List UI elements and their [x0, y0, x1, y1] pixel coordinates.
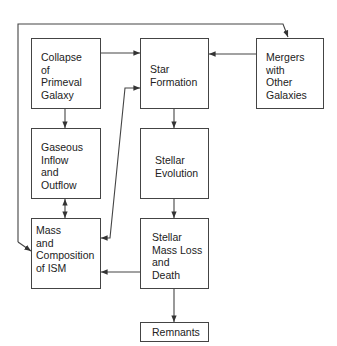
node-label-line: of ISM — [36, 262, 100, 275]
node-gaseous-inflow-outflow: Gaseous Inflow and Outflow — [31, 128, 101, 199]
node-label-line: Outflow — [41, 179, 100, 192]
node-label-line: Evolution — [155, 167, 208, 180]
node-label-line: Star — [150, 63, 208, 76]
node-label-line: with — [266, 64, 323, 77]
node-label-line: and — [41, 166, 100, 179]
edge-outer-loop-to-ism — [18, 242, 31, 251]
node-label-line: Composition — [36, 249, 100, 262]
node-mergers-with-other-galaxies: Mergers with Other Galaxies — [256, 38, 324, 109]
node-stellar-evolution: Stellar Evolution — [140, 128, 209, 199]
node-label-line: Mergers — [266, 51, 323, 64]
node-label-line: of — [41, 64, 100, 77]
node-label-line: Galaxy — [41, 89, 100, 102]
node-star-formation: Star Formation — [140, 38, 209, 109]
node-label-line: Inflow — [41, 154, 100, 167]
node-label-line: Stellar — [155, 154, 208, 167]
node-collapse-of-primeval-galaxy: Collapse of Primeval Galaxy — [31, 38, 101, 109]
node-label-line: Gaseous — [41, 141, 100, 154]
node-label-line: Mass Loss — [152, 244, 208, 257]
node-label-line: Death — [152, 269, 208, 282]
node-label-line: Formation — [150, 76, 208, 89]
node-label-line: and — [36, 237, 100, 250]
node-label-line: Stellar — [152, 231, 208, 244]
node-mass-composition-ism: Mass and Composition of ISM — [31, 218, 101, 289]
node-label-line: Collapse — [41, 51, 100, 64]
edge-ism-star — [101, 88, 140, 238]
node-stellar-mass-loss-death: Stellar Mass Loss and Death — [140, 218, 209, 289]
node-label-line: Remnants — [152, 326, 208, 339]
node-label-line: and — [152, 256, 208, 269]
node-label-line: Other — [266, 76, 323, 89]
node-remnants: Remnants — [140, 322, 209, 342]
node-label-line: Primeval — [41, 76, 100, 89]
node-label-line: Galaxies — [266, 89, 323, 102]
node-label-line: Mass — [36, 224, 100, 237]
